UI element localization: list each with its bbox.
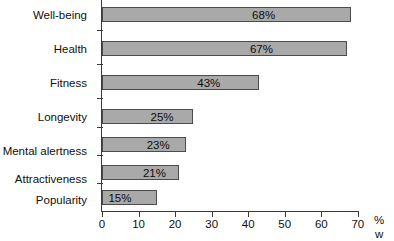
x-axis-unit-label: %: [374, 214, 384, 227]
bar-value-label: 43%: [197, 77, 220, 89]
y-axis-tick: [97, 98, 103, 99]
x-axis-tick: [248, 212, 249, 217]
category-label-popularity: Popularity: [0, 194, 87, 206]
x-axis-tick: [321, 212, 322, 217]
bar-value-label: 21%: [143, 167, 166, 179]
y-axis-tick: [97, 127, 103, 128]
x-axis-tick: [102, 212, 103, 217]
category-label-fitness: Fitness: [0, 77, 87, 89]
category-label-health: Health: [0, 43, 87, 55]
category-label-longevity: Longevity: [0, 111, 87, 123]
x-axis-tick-label: 70: [351, 218, 364, 230]
bar-value-label: 15%: [108, 192, 131, 204]
x-axis-tick-label: 10: [132, 218, 145, 230]
y-axis-line: [101, 0, 102, 212]
bar-mental-alertness: 23%: [102, 137, 186, 152]
y-axis-tick: [97, 64, 103, 65]
category-label-mental-alertness: Mental alertness: [0, 145, 87, 157]
category-axis-labels: Well-being Health Fitness Longevity Ment…: [0, 0, 95, 212]
x-axis-line: [101, 211, 359, 212]
bar-attractiveness: 21%: [102, 165, 179, 180]
bar-popularity: 15%: [102, 190, 157, 205]
bar-value-label: 25%: [151, 111, 174, 123]
bar-value-label: 23%: [147, 139, 170, 151]
x-axis-unit-label-continued: w: [375, 228, 383, 241]
bar-fitness: 43%: [102, 75, 259, 90]
x-axis-tick: [212, 212, 213, 217]
x-axis-tick-label: 40: [242, 218, 255, 230]
y-axis-tick: [97, 30, 103, 31]
bar-health: 67%: [102, 41, 347, 56]
x-axis-tick: [175, 212, 176, 217]
bar-well-being: 68%: [102, 7, 351, 22]
category-label-attractiveness: Attractiveness: [0, 173, 87, 185]
y-axis-tick: [97, 155, 103, 156]
x-axis-tick-label: 50: [278, 218, 291, 230]
bar-value-label: 67%: [250, 43, 273, 55]
x-axis-tick-label: 30: [205, 218, 218, 230]
plot-area: 68% 67% 43% 25% 23% 21% 15% 0 10 20: [102, 0, 358, 212]
x-axis-tick: [285, 212, 286, 217]
x-axis-tick-label: 60: [315, 218, 328, 230]
x-axis-tick: [358, 212, 359, 217]
bar-value-label: 68%: [252, 9, 275, 21]
y-axis-tick: [97, 183, 103, 184]
x-axis-tick-label: 0: [99, 218, 105, 230]
x-axis-tick: [139, 212, 140, 217]
category-label-well-being: Well-being: [0, 9, 87, 21]
x-axis-tick-label: 20: [169, 218, 182, 230]
bar-longevity: 25%: [102, 109, 193, 124]
horizontal-bar-chart: Well-being Health Fitness Longevity Ment…: [0, 0, 394, 241]
